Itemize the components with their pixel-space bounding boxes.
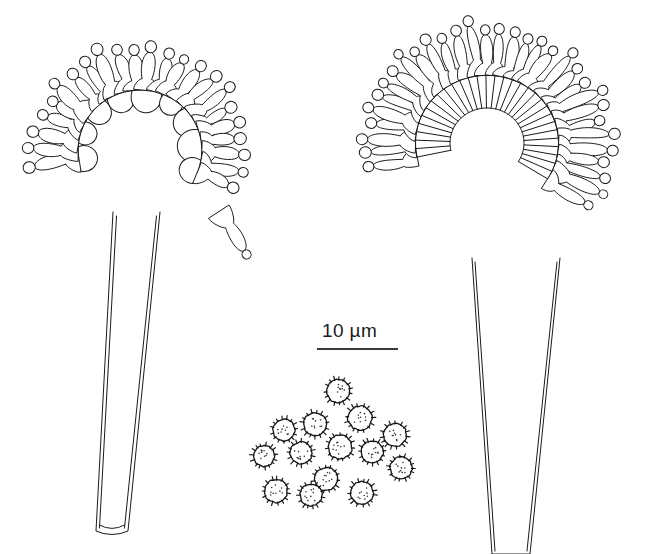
spore-stipple — [363, 495, 365, 497]
spore-stipple — [304, 495, 306, 497]
terminal-spore-9 — [111, 43, 124, 56]
spore-stipple — [312, 492, 314, 494]
spore-stipple — [306, 497, 308, 499]
left-sporangiophore — [22, 40, 253, 534]
spore-stipple — [313, 425, 315, 427]
spore-stipple — [277, 429, 279, 431]
spore-stipple — [260, 458, 262, 460]
spore-spine — [288, 457, 291, 458]
spore-stipple — [394, 433, 396, 435]
receptacle-septum-4 — [416, 123, 451, 133]
spore-stipple — [320, 419, 322, 421]
receptacle-septum-28 — [523, 149, 559, 155]
spore-stipple — [283, 425, 285, 427]
spore-stipple — [303, 456, 305, 458]
spore-spine — [292, 437, 294, 439]
spore-stipple — [377, 451, 379, 453]
spore-cluster — [250, 376, 416, 509]
spore-spine — [334, 470, 336, 472]
spore-stipple — [329, 472, 331, 474]
spore-spine — [316, 504, 318, 507]
spore-12 — [297, 481, 326, 509]
spore-stipple — [366, 487, 368, 489]
terminal-spore-19 — [233, 132, 247, 145]
terminal-spore-11 — [145, 40, 158, 53]
spore-spine — [328, 399, 331, 402]
spore-6 — [326, 433, 355, 461]
spore-stipple — [373, 448, 375, 450]
spore-spine — [308, 505, 309, 508]
spore-spine — [260, 444, 261, 446]
spore-spine — [276, 419, 278, 421]
terminal-spore-2 — [356, 134, 368, 145]
spore-spine — [294, 434, 297, 435]
spore-9 — [386, 454, 415, 481]
spore-stipple — [275, 492, 277, 494]
terminal-spore-4 — [361, 101, 375, 114]
spore-stipple — [337, 387, 339, 389]
spore-stipple — [258, 453, 260, 455]
spore-spine — [348, 436, 351, 439]
spore-spine — [380, 437, 384, 438]
spore-stipple — [327, 472, 329, 474]
spore-spine — [349, 425, 351, 427]
spore-stipple — [366, 492, 368, 494]
spore-stipple — [338, 384, 340, 386]
spore-stipple — [278, 432, 280, 434]
spore-stipple — [325, 481, 327, 483]
receptacle-septum-3 — [414, 131, 450, 137]
spore-1 — [300, 409, 329, 439]
spore-spine — [296, 463, 297, 466]
spore-stipple — [375, 447, 377, 449]
spore-5 — [287, 438, 315, 468]
spore-stipple — [287, 433, 289, 435]
spore-spine — [377, 461, 379, 464]
spore-stipple — [395, 464, 397, 466]
terminal-spore-17 — [521, 32, 534, 45]
receptacle-septum-11 — [459, 78, 473, 110]
spore-spine — [390, 461, 392, 462]
spore-stipple — [339, 388, 341, 390]
spore-spine — [326, 441, 329, 442]
spore-stipple — [371, 457, 373, 459]
spore-spine — [349, 498, 352, 500]
receptacle-septum-14 — [486, 73, 487, 108]
spore-stipple — [395, 434, 397, 436]
spore-spine — [287, 493, 291, 494]
spore-stipple — [319, 425, 321, 427]
spore-stipple — [307, 500, 309, 502]
spore-stipple — [359, 412, 361, 414]
spore-spine — [319, 467, 320, 469]
spore-stipple — [360, 491, 362, 493]
spore-spine — [311, 409, 312, 413]
spore-stipple — [337, 391, 339, 393]
terminal-spore-2 — [26, 125, 40, 138]
spore-stipple — [310, 496, 312, 498]
spore-spine — [325, 396, 328, 397]
spore-stipple — [270, 494, 272, 496]
spore-stipple — [333, 444, 335, 446]
spore-stipple — [311, 489, 313, 491]
spore-13 — [348, 479, 377, 507]
spore-spine — [342, 458, 343, 461]
receptacle-septum-15 — [491, 73, 495, 108]
spore-stipple — [263, 450, 265, 452]
spore-stipple — [307, 450, 309, 452]
spore-2 — [345, 404, 376, 433]
spore-spine — [273, 459, 276, 460]
spore-body — [289, 442, 312, 465]
stalk-outline — [96, 212, 160, 535]
spore-stipple — [358, 417, 360, 419]
spore-spine — [312, 481, 316, 482]
spore-stipple — [357, 496, 359, 498]
scale-bar-label: 10 µm — [322, 320, 377, 342]
receptacle-septum-31 — [518, 162, 549, 181]
terminal-spore-15 — [494, 23, 505, 35]
spore-spine — [382, 455, 385, 456]
terminal-spore-27 — [607, 145, 619, 156]
spore-stipple — [305, 491, 307, 493]
spore-spine — [274, 454, 278, 455]
spore-stipple — [311, 425, 313, 427]
terminal-spore-12 — [450, 24, 463, 38]
spore-spine — [333, 487, 335, 490]
